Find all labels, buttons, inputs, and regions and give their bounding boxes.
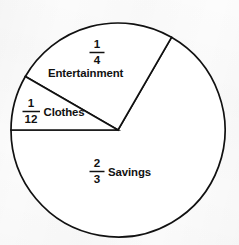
savings-slice-label: Savings [108,166,151,178]
clothes-fraction-numerator: 1 [28,96,35,109]
savings-fraction-numerator: 2 [94,156,100,169]
savings-fraction-denominator: 3 [94,172,101,185]
pie-chart-figure: 1 4 Entertainment 1 12 Clothes 2 3 Savin… [0,0,239,245]
pie-chart-svg: 1 4 Entertainment 1 12 Clothes 2 3 Savin… [0,0,239,245]
entertainment-fraction-numerator: 1 [94,37,101,50]
entertainment-slice-label: Entertainment [48,67,124,79]
clothes-fraction-denominator: 12 [25,112,38,125]
clothes-slice-label: Clothes [44,106,85,118]
entertainment-fraction-denominator: 4 [94,53,101,66]
